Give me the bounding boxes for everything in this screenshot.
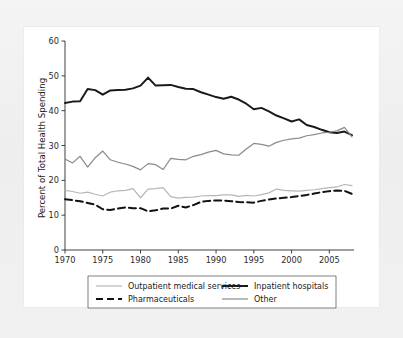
series-line-outpatient-medical-services bbox=[65, 185, 352, 199]
y-tick-label: 50 bbox=[49, 71, 59, 81]
y-tick-label: 20 bbox=[49, 175, 59, 185]
data-series-group bbox=[65, 78, 352, 212]
x-tick-label: 2005 bbox=[319, 255, 340, 265]
legend-label: Other bbox=[254, 295, 277, 304]
svg-text:Percent of Total Health Spendi: Percent of Total Health Spending bbox=[37, 78, 47, 218]
x-axis-ticks: 19701975198019851990199520002005 bbox=[55, 250, 340, 265]
x-tick-label: 1995 bbox=[243, 255, 264, 265]
line-chart: Percent of Total Health Spending 0102030… bbox=[0, 0, 403, 338]
y-axis-title: Percent of Total Health Spending bbox=[37, 78, 47, 218]
legend-box bbox=[88, 276, 336, 308]
legend-label: Inpatient hospitals bbox=[254, 282, 328, 291]
y-axis-ticks: 0102030405060 bbox=[49, 36, 65, 255]
legend-label: Pharmaceuticals bbox=[128, 295, 194, 304]
y-tick-label: 0 bbox=[54, 245, 59, 255]
x-tick-label: 1980 bbox=[130, 255, 151, 265]
x-tick-label: 2000 bbox=[281, 255, 302, 265]
series-line-inpatient-hospitals bbox=[65, 78, 352, 135]
y-tick-label: 40 bbox=[49, 106, 59, 116]
y-tick-label: 10 bbox=[49, 210, 59, 220]
y-tick-label: 30 bbox=[49, 141, 59, 151]
x-tick-label: 1990 bbox=[206, 255, 227, 265]
x-tick-label: 1970 bbox=[55, 255, 76, 265]
x-tick-label: 1975 bbox=[92, 255, 113, 265]
y-tick-label: 60 bbox=[49, 36, 59, 46]
series-line-other bbox=[65, 127, 352, 169]
x-tick-label: 1985 bbox=[168, 255, 189, 265]
figure-page: Percent of Total Health Spending 0102030… bbox=[0, 0, 403, 338]
